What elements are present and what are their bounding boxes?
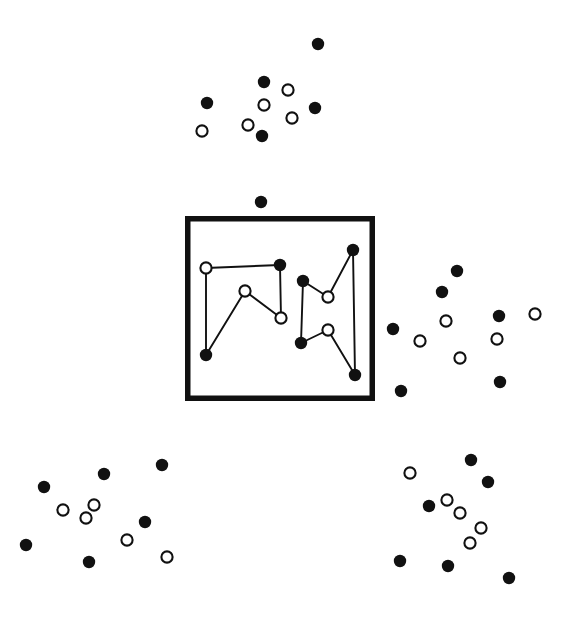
open-point-marker: [322, 291, 333, 302]
open-point-marker: [57, 504, 68, 515]
open-point-marker: [454, 352, 465, 363]
point-group-framed-chain-left: [200, 259, 287, 361]
filled-point-marker: [482, 476, 494, 488]
open-point-marker: [242, 119, 253, 130]
open-point-marker: [404, 467, 415, 478]
filled-point-marker: [312, 38, 324, 50]
open-point-marker: [491, 333, 502, 344]
open-point-marker: [440, 315, 451, 326]
open-point-marker: [282, 84, 293, 95]
open-point-marker: [200, 262, 211, 273]
open-point-marker: [475, 522, 486, 533]
filled-point-marker: [423, 500, 435, 512]
chain-link: [280, 265, 281, 318]
filled-point-marker: [436, 286, 448, 298]
open-point-marker: [161, 551, 172, 562]
open-point-marker: [196, 125, 207, 136]
filled-point-marker: [503, 572, 515, 584]
filled-point-marker: [387, 323, 399, 335]
open-point-marker: [529, 308, 540, 319]
filled-point-marker: [395, 385, 407, 397]
point-group-framed-chain-right: [295, 244, 361, 381]
filled-point-marker: [297, 275, 309, 287]
point-group-isolated-point-above-frame: [255, 196, 267, 208]
chain-link: [328, 250, 353, 297]
filled-point-marker: [200, 349, 212, 361]
chain-link: [301, 281, 303, 343]
point-group-top-cluster: [196, 38, 324, 142]
chain-link: [353, 250, 355, 375]
open-point-marker: [258, 99, 269, 110]
point-group-bottom-left-cluster: [20, 459, 173, 568]
filled-point-marker: [156, 459, 168, 471]
chain-link: [245, 291, 281, 318]
scatter-diagram: [0, 0, 573, 620]
filled-point-marker: [256, 130, 268, 142]
open-point-marker: [275, 312, 286, 323]
filled-point-marker: [347, 244, 359, 256]
open-point-marker: [454, 507, 465, 518]
open-point-marker: [441, 494, 452, 505]
filled-point-marker: [494, 376, 506, 388]
open-point-marker: [286, 112, 297, 123]
filled-point-marker: [394, 555, 406, 567]
open-point-marker: [464, 537, 475, 548]
filled-point-marker: [295, 337, 307, 349]
open-point-marker: [322, 324, 333, 335]
chain-link: [328, 330, 355, 375]
filled-point-marker: [258, 76, 270, 88]
point-group-bottom-right-cluster: [394, 454, 515, 584]
chain-link: [206, 265, 280, 268]
filled-point-marker: [255, 196, 267, 208]
filled-point-marker: [98, 468, 110, 480]
chain-link: [206, 291, 245, 355]
filled-point-marker: [349, 369, 361, 381]
filled-point-marker: [465, 454, 477, 466]
open-point-marker: [414, 335, 425, 346]
filled-point-marker: [139, 516, 151, 528]
open-point-marker: [121, 534, 132, 545]
filled-point-marker: [442, 560, 454, 572]
point-group-right-cluster: [387, 265, 541, 397]
filled-point-marker: [20, 539, 32, 551]
filled-point-marker: [274, 259, 286, 271]
open-point-marker: [80, 512, 91, 523]
filled-point-marker: [493, 310, 505, 322]
open-point-marker: [88, 499, 99, 510]
filled-point-marker: [83, 556, 95, 568]
filled-point-marker: [451, 265, 463, 277]
figure-canvas: [0, 0, 573, 620]
filled-point-marker: [309, 102, 321, 114]
filled-point-marker: [38, 481, 50, 493]
filled-point-marker: [201, 97, 213, 109]
open-point-marker: [239, 285, 250, 296]
